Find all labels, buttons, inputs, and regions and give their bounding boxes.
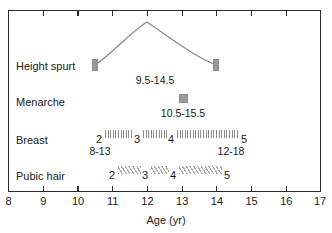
pubic-hair-stage-4: 4 — [168, 169, 178, 181]
axis-tick-top-10 — [77, 10, 78, 16]
axis-tick-12 — [147, 186, 148, 192]
axis-tick-label-17: 17 — [308, 195, 332, 207]
breast-stage-2: 2 — [94, 133, 104, 145]
axis-tick-9 — [43, 186, 44, 192]
axis-tick-top-11 — [112, 10, 113, 16]
breast-stage-3: 3 — [132, 133, 142, 145]
axis-tick-label-13: 13 — [170, 195, 194, 207]
pubic-hair-stage-2: 2 — [107, 169, 117, 181]
axis-tick-top-8 — [8, 10, 9, 16]
row-label-breast: Breast — [16, 134, 48, 146]
pubic-hair-bar-4-5 — [179, 166, 222, 174]
axis-tick-top-17 — [320, 10, 321, 16]
axis-tick-11 — [112, 186, 113, 192]
pubic-hair-stage-3: 3 — [140, 169, 150, 181]
axis-tick-16 — [286, 186, 287, 192]
height-spurt-end-marker — [213, 59, 219, 71]
pubic-hair-bar-2-3 — [118, 166, 141, 174]
breast-bar-3-4 — [143, 130, 167, 138]
row-label-pubic-hair: Pubic hair — [16, 170, 65, 182]
pubic-hair-bar-3-4 — [151, 166, 169, 174]
axis-tick-label-8: 8 — [0, 195, 21, 207]
axis-tick-13 — [182, 186, 183, 192]
axis-tick-label-14: 14 — [205, 195, 229, 207]
axis-tick-8 — [8, 186, 9, 192]
axis-tick-top-16 — [286, 10, 287, 16]
row-label-menarche: Menarche — [16, 96, 65, 108]
menarche-marker — [179, 94, 188, 103]
breast-stage-4: 4 — [166, 133, 176, 145]
axis-tick-top-12 — [147, 10, 148, 16]
axis-tick-label-16: 16 — [274, 195, 298, 207]
axis-tick-10 — [77, 186, 78, 192]
breast-bar-2-3 — [105, 130, 133, 138]
menarche-range-caption: 10.5-15.5 — [138, 108, 228, 119]
axis-tick-label-12: 12 — [135, 195, 159, 207]
height-spurt-start-marker — [92, 59, 98, 71]
axis-tick-label-10: 10 — [66, 195, 90, 207]
axis-tick-label-11: 11 — [101, 195, 125, 207]
axis-tick-top-14 — [216, 10, 217, 16]
row-label-height-spurt: Height spurt — [16, 60, 75, 72]
breast-stage-5: 5 — [239, 133, 249, 145]
axis-tick-14 — [216, 186, 217, 192]
axis-tick-17 — [320, 186, 321, 192]
breast-right-caption: 12-18 — [209, 146, 253, 157]
breast-bar-4-5 — [177, 130, 239, 138]
axis-tick-15 — [251, 186, 252, 192]
axis-tick-top-9 — [43, 10, 44, 16]
axis-tick-label-15: 15 — [240, 195, 264, 207]
height-spurt-range-caption: 9.5-14.5 — [110, 75, 200, 86]
breast-left-caption: 8-13 — [80, 146, 120, 157]
axis-tick-label-9: 9 — [31, 195, 55, 207]
x-axis-title: Age (yr) — [0, 214, 332, 226]
pubic-hair-stage-5: 5 — [222, 169, 232, 181]
axis-tick-top-15 — [251, 10, 252, 16]
puberty-timeline-chart: 8 9 10 11 12 13 14 15 16 17 Age (yr) Hei… — [0, 0, 332, 233]
axis-tick-top-13 — [182, 10, 183, 16]
